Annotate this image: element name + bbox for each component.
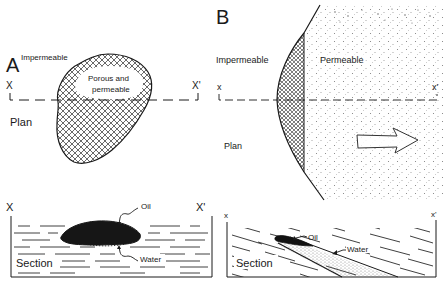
water-leader-a bbox=[119, 247, 138, 261]
section-b-view-label: Section bbox=[236, 257, 273, 269]
panel-a-section: X X' Oil Water Section bbox=[6, 201, 212, 277]
section-a-view-label: Section bbox=[16, 257, 53, 269]
panel-b-plan: B Impermeable Permeable x x' Plan bbox=[216, 5, 444, 200]
porous-label-line2: permeable bbox=[92, 85, 130, 94]
oil-leader-a bbox=[119, 208, 138, 224]
diagram-canvas: A Impermeable Porous and permeable X X' … bbox=[0, 0, 446, 281]
panel-a-label: A bbox=[6, 54, 20, 76]
section-b-x-label: x bbox=[224, 211, 228, 220]
section-a-oil-label: Oil bbox=[141, 202, 151, 211]
section-b-water-label: Water bbox=[347, 245, 368, 254]
panel-a-plan: A Impermeable Porous and permeable X X' … bbox=[6, 53, 201, 163]
plan-a-x-label: X bbox=[6, 80, 13, 91]
plan-b-x-label: x bbox=[217, 82, 222, 92]
section-b-x-prime-label: x' bbox=[431, 210, 437, 219]
plan-b-impermeable-label: Impermeable bbox=[216, 55, 269, 65]
plan-b-x-prime-label: x' bbox=[432, 82, 439, 92]
panel-b-label: B bbox=[216, 6, 229, 28]
plan-b-permeable-label: Permeable bbox=[320, 55, 364, 65]
plan-a-x-prime-label: X' bbox=[192, 80, 201, 91]
oil-body-a bbox=[61, 221, 141, 245]
porous-label-line1: Porous and bbox=[88, 74, 129, 83]
plan-a-view-label: Plan bbox=[10, 116, 32, 128]
section-a-x-prime-label: X' bbox=[196, 201, 205, 213]
impermeable-label: Impermeable bbox=[21, 53, 68, 62]
section-a-x-label: X bbox=[6, 201, 14, 213]
plan-b-view-label: Plan bbox=[224, 141, 242, 151]
section-b-oil-label: Oil bbox=[308, 233, 318, 242]
section-a-water-label: Water bbox=[140, 255, 161, 264]
panel-b-section: x x' Oil Water Section bbox=[224, 210, 437, 278]
